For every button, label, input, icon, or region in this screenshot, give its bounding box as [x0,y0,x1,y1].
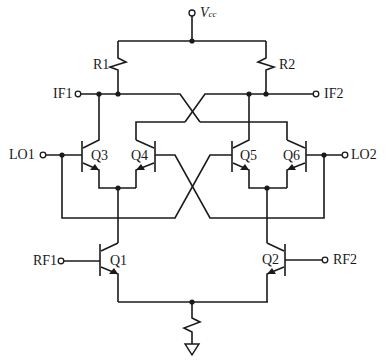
rf2-terminal [322,257,328,263]
vcc-terminal [189,10,195,16]
q6-collector-wire [200,122,287,140]
q4-collector [136,140,154,148]
rf1-terminal [58,258,64,264]
q3-label: Q3 [91,149,108,163]
q4-label: Q4 [131,149,148,163]
q3-collector [83,94,99,148]
rf2-label: RF2 [333,253,357,267]
lo2-label: LO2 [351,148,377,162]
q1-label: Q1 [110,254,127,268]
if2-terminal [313,91,319,97]
q3-emitter [83,163,136,188]
q6-emitter [287,163,305,188]
resistor-r1 [110,41,126,94]
rf1-label: RF1 [33,254,57,268]
lo1-label: LO1 [9,148,35,162]
q6-label: Q6 [283,149,300,163]
if1-terminal [75,91,81,97]
ground-icon [185,344,199,355]
circuit-schematic [0,0,387,364]
if1-label: IF1 [53,87,72,101]
node-vcc [189,38,194,43]
q5-emitter [233,163,287,188]
lo2-terminal [342,152,348,158]
resistor-tail [184,302,200,344]
q5-label: Q5 [240,149,257,163]
resistor-r2 [258,41,274,94]
q6-collector [287,140,305,148]
if2-label: IF2 [324,87,343,101]
q4-collector-wire [136,122,185,140]
r1-label: R1 [93,58,109,72]
r2-label: R2 [279,58,295,72]
node-if2-r2 [263,91,268,96]
q5-collector [233,94,249,148]
q2-collector [267,243,284,251]
vcc-label: Vcc [200,6,217,21]
q2-label: Q2 [262,253,279,267]
q1-collector [101,243,118,251]
node-if1-r1 [115,91,120,96]
q4-emitter [136,163,154,188]
lo1-terminal [40,152,46,158]
